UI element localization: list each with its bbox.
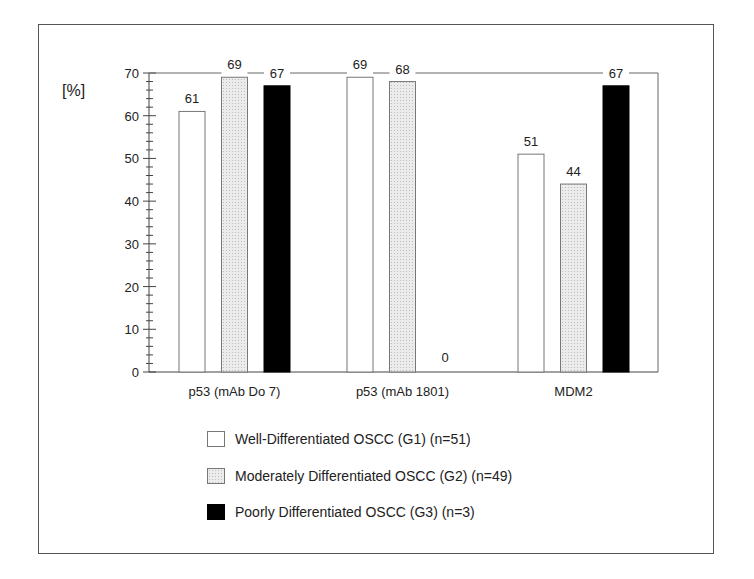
bar-value-label: 67 [609, 66, 623, 81]
y-tick-label: 0 [132, 365, 139, 380]
legend-item-g3: Poorly Differentiated OSCC (G3) (n=3) [207, 503, 512, 521]
bar-dotted [561, 184, 587, 372]
legend-label: Well-Differentiated OSCC (G1) (n=51) [235, 431, 471, 447]
bar-dotted [390, 82, 416, 372]
bar-value-label: 61 [185, 91, 199, 106]
bar-value-label: 44 [566, 164, 580, 179]
bar-value-label: 0 [441, 350, 448, 365]
bar-black [603, 86, 629, 372]
bar-white [347, 77, 373, 372]
bar-white [179, 111, 205, 372]
y-tick-label: 40 [125, 194, 139, 209]
y-tick-label: 70 [125, 66, 139, 81]
x-category-label: MDM2 [554, 384, 592, 399]
bar-value-label: 68 [395, 62, 409, 77]
legend-swatch-black [207, 504, 225, 520]
legend-item-g1: Well-Differentiated OSCC (G1) (n=51) [207, 430, 512, 448]
chart-bars [179, 77, 629, 372]
chart-legend: Well-Differentiated OSCC (G1) (n=51) Mod… [207, 430, 512, 540]
legend-swatch-dotted [207, 468, 225, 484]
y-axis-label: [%] [62, 82, 85, 99]
x-category-label: p53 (mAb Do 7) [189, 384, 281, 399]
bar-white [518, 154, 544, 372]
bar-value-label: 69 [227, 57, 241, 72]
y-tick-label: 10 [125, 322, 139, 337]
y-tick-label: 60 [125, 109, 139, 124]
bar-value-label: 51 [524, 134, 538, 149]
bar-black [264, 86, 290, 372]
legend-label: Poorly Differentiated OSCC (G3) (n=3) [235, 504, 475, 520]
legend-label: Moderately Differentiated OSCC (G2) (n=4… [235, 468, 512, 484]
bar-value-label: 67 [270, 66, 284, 81]
bar-value-label: 69 [353, 57, 367, 72]
x-category-label: p53 (mAb 1801) [356, 384, 449, 399]
y-tick-label: 30 [125, 237, 139, 252]
y-tick-label: 50 [125, 151, 139, 166]
legend-swatch-white [207, 431, 225, 447]
y-tick-label: 20 [125, 280, 139, 295]
legend-item-g2: Moderately Differentiated OSCC (G2) (n=4… [207, 467, 512, 485]
bar-dotted [222, 77, 248, 372]
